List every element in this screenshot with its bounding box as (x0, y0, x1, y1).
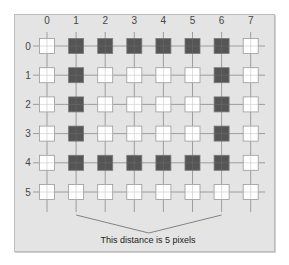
pixel-empty (243, 68, 258, 83)
pixel-empty (243, 126, 258, 141)
row-label: 5 (25, 187, 31, 198)
pixel-empty (40, 68, 55, 83)
pixel-filled (98, 39, 113, 54)
pixel-grid-diagram: 01234567 012345 This distance is 5 pixel… (0, 0, 289, 265)
pixel-empty (185, 126, 200, 141)
pixel-empty (127, 185, 142, 200)
row-label: 0 (25, 41, 31, 52)
column-label: 3 (132, 15, 138, 26)
pixel-empty (185, 97, 200, 112)
pixel-empty (98, 68, 113, 83)
row-label: 4 (25, 157, 31, 168)
pixel-empty (127, 68, 142, 83)
pixel-empty (98, 126, 113, 141)
pixel-filled (127, 155, 142, 170)
pixel-cells (40, 39, 259, 200)
pixel-empty (127, 126, 142, 141)
pixel-empty (214, 185, 229, 200)
column-labels: 01234567 (44, 15, 254, 26)
pixel-empty (98, 97, 113, 112)
pixel-empty (156, 126, 171, 141)
pixel-empty (156, 185, 171, 200)
pixel-filled (214, 68, 229, 83)
row-label: 3 (25, 128, 31, 139)
pixel-empty (40, 126, 55, 141)
row-label: 1 (25, 70, 31, 81)
pixel-filled (214, 97, 229, 112)
column-label: 4 (161, 15, 167, 26)
column-label: 6 (219, 15, 225, 26)
pixel-empty (243, 97, 258, 112)
pixel-filled (214, 39, 229, 54)
pixel-empty (156, 68, 171, 83)
pixel-filled (69, 155, 84, 170)
pixel-filled (185, 155, 200, 170)
pixel-empty (40, 39, 55, 54)
pixel-filled (127, 39, 142, 54)
column-label: 7 (248, 15, 254, 26)
pixel-empty (243, 39, 258, 54)
distance-bracket (76, 215, 222, 233)
pixel-filled (69, 97, 84, 112)
pixel-filled (69, 68, 84, 83)
column-label: 5 (190, 15, 196, 26)
pixel-filled (156, 155, 171, 170)
column-label: 0 (44, 15, 50, 26)
pixel-empty (69, 185, 84, 200)
column-label: 2 (102, 15, 108, 26)
pixel-empty (185, 68, 200, 83)
pixel-filled (185, 39, 200, 54)
pixel-filled (98, 155, 113, 170)
row-label: 2 (25, 99, 31, 110)
row-labels: 012345 (25, 41, 31, 198)
pixel-filled (69, 39, 84, 54)
pixel-empty (98, 185, 113, 200)
pixel-empty (127, 97, 142, 112)
distance-caption: This distance is 5 pixels (100, 235, 196, 245)
pixel-filled (214, 155, 229, 170)
pixel-filled (156, 39, 171, 54)
column-label: 1 (73, 15, 79, 26)
pixel-empty (156, 97, 171, 112)
pixel-empty (40, 97, 55, 112)
pixel-filled (69, 126, 84, 141)
pixel-filled (214, 126, 229, 141)
pixel-empty (185, 185, 200, 200)
pixel-empty (243, 155, 258, 170)
pixel-empty (40, 155, 55, 170)
pixel-empty (40, 185, 55, 200)
pixel-empty (243, 185, 258, 200)
grid-lines (33, 32, 265, 212)
